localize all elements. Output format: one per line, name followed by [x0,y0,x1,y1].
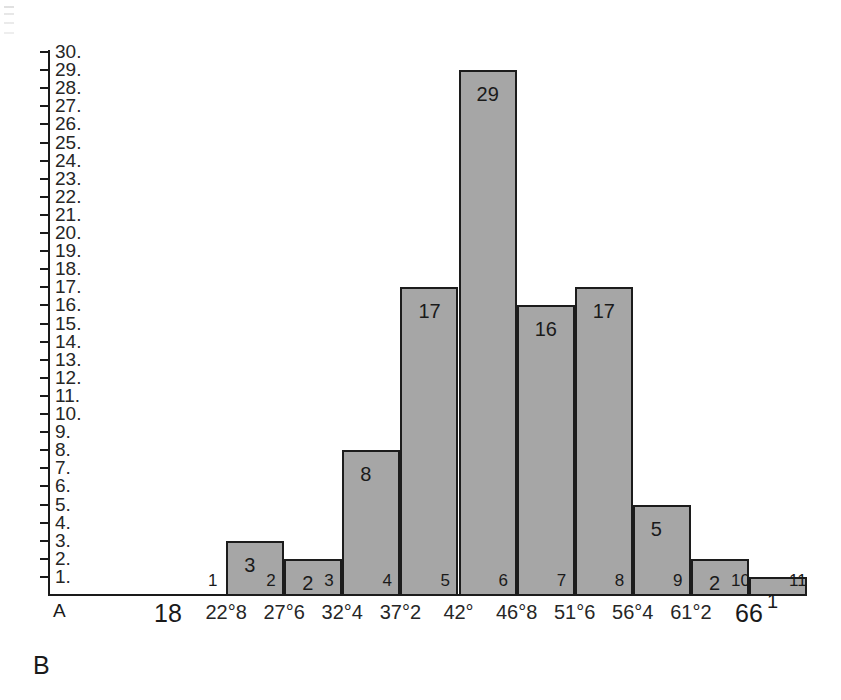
x-axis-tick-label: 51°6 [554,601,595,623]
y-axis-tick [40,286,49,288]
x-axis-tick-label: 22°8 [205,601,246,623]
x-axis-tick-label: 61°2 [670,601,711,623]
x-axis-tick-label: 66 [735,601,763,626]
y-axis-tick [40,323,49,325]
x-axis-tick-label: 46°8 [496,601,537,623]
y-axis-tick [40,467,49,469]
y-axis-tick [40,51,49,53]
y-axis-tick [40,540,49,542]
y-axis-tick-label: 19. [55,241,81,260]
y-axis-tick-label: 25. [55,133,81,152]
bar [400,287,458,596]
y-axis-tick-label: 5. [55,495,71,514]
y-axis-tick [40,485,49,487]
bin-index-label: 3 [324,572,333,589]
y-axis-tick-label: 28. [55,78,81,97]
y-axis-tick-label: 6. [55,476,71,495]
y-axis-tick-label: 12. [55,368,81,387]
bin-index-label: 11 [789,572,807,589]
bar-value-label: 8 [360,464,371,484]
x-axis-tick-label: 56°4 [612,601,653,623]
bar [517,305,575,596]
y-axis-tick [40,250,49,252]
y-axis-tick-label: 23. [55,169,81,188]
y-axis-tick [40,576,49,578]
y-axis-tick-label: 1. [55,567,71,586]
y-axis-tick-label: 15. [55,314,81,333]
y-axis-tick [40,341,49,343]
bar-value-label: 2 [302,573,313,593]
bar-value-label: 17 [418,301,440,321]
bar-value-label: 16 [535,319,557,339]
y-axis-tick [40,449,49,451]
bin-index-label: 9 [673,572,682,589]
y-axis-tick-label: 24. [55,151,81,170]
bar-value-label: 3 [244,555,255,575]
y-axis-tick [40,232,49,234]
y-axis-tick [40,87,49,89]
x-axis-tick-label: 37°2 [380,601,421,623]
bar-value-label: 2 [709,573,720,593]
y-axis-tick [40,522,49,524]
y-axis-tick-label: 20. [55,223,81,242]
bar [575,287,633,596]
y-axis-tick [40,268,49,270]
bin-index-label: 5 [441,572,450,589]
panel-label-b: B [33,653,50,678]
bar-value-label: 29 [477,84,499,104]
y-axis-tick-label: 30. [55,42,81,61]
y-axis-tick [40,359,49,361]
bin-index-label: 8 [615,572,624,589]
y-axis-tick-label: 9. [55,422,71,441]
panel-label-a: A [53,601,66,620]
y-axis-tick-label: 2. [55,549,71,568]
y-axis-tick [40,178,49,180]
y-axis-tick [40,105,49,107]
x-axis-tick-label: 42° [443,601,473,623]
bar-value-label: 17 [593,301,615,321]
bar [459,70,517,596]
histogram-figure: 1.2.3.4.5.6.7.8.9.10.11.12.13.14.15.16.1… [0,0,841,700]
x-axis-tick-label: 27°6 [264,601,305,623]
y-axis-tick [40,304,49,306]
y-axis-tick [40,431,49,433]
bin-index-label: 4 [382,572,391,589]
y-axis-tick-label: 10. [55,404,81,423]
y-axis-tick-label: 21. [55,205,81,224]
y-axis-tick-label: 18. [55,259,81,278]
y-axis-tick [40,377,49,379]
y-axis-tick [40,123,49,125]
x-axis-tick-label: 32°4 [322,601,363,623]
bin-index-label: 1 [208,572,217,589]
y-axis-tick [40,504,49,506]
x-axis-tick-label: 18 [154,601,182,626]
y-axis-tick-label: 4. [55,513,71,532]
y-axis-tick [40,413,49,415]
y-axis-tick-label: 8. [55,440,71,459]
y-axis-tick-label: 16. [55,295,81,314]
y-axis-tick-label: 11. [55,386,80,405]
y-axis-tick [40,214,49,216]
bar-value-label: 1 [767,591,778,611]
y-axis-tick [40,558,49,560]
bin-index-label: 7 [557,572,566,589]
y-axis-tick [40,69,49,71]
y-axis-tick [40,395,49,397]
bar-value-label: 5 [651,519,662,539]
bin-index-label: 6 [499,572,508,589]
scan-artifact [4,6,14,40]
y-axis-tick [40,160,49,162]
y-axis-tick-label: 14. [55,332,81,351]
y-axis-tick [40,196,49,198]
y-axis-tick-label: 22. [55,187,81,206]
bin-index-label: 2 [266,572,275,589]
y-axis-tick-label: 7. [55,458,71,477]
y-axis-tick-label: 3. [55,531,71,550]
bin-index-label: 10 [731,572,750,589]
y-axis-tick-label: 29. [55,60,81,79]
y-axis-tick-label: 13. [55,350,81,369]
y-axis-tick [40,142,49,144]
y-axis-tick-label: 27. [55,96,81,115]
y-axis-tick-label: 26. [55,114,81,133]
y-axis-tick-label: 17. [55,277,81,296]
